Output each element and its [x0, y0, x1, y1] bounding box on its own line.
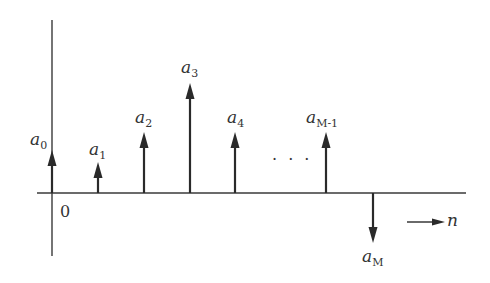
- label-a1: a1: [89, 141, 106, 161]
- impulse-stem-a4: [231, 132, 240, 193]
- n-direction-arrow-icon: [407, 219, 445, 226]
- impulse-stem-a0: [48, 150, 57, 193]
- impulse-sequence-diagram: [0, 0, 490, 283]
- impulse-stem-aM-1: [322, 132, 331, 193]
- impulse-stem-a1: [94, 162, 103, 193]
- label-a3: a3: [181, 59, 198, 79]
- origin-label: 0: [60, 204, 70, 220]
- label-aM-1: aM-1: [306, 109, 338, 129]
- n-axis-label: n: [447, 212, 458, 229]
- label-a2: a2: [135, 109, 152, 129]
- impulse-stem-a3: [186, 83, 195, 193]
- impulse-stem-a2: [140, 132, 149, 193]
- label-a0: a0: [30, 131, 47, 151]
- label-a4: a4: [227, 109, 244, 129]
- ellipsis: · · ·: [272, 152, 312, 168]
- label-aM: aM: [362, 248, 383, 268]
- impulse-stem-aM: [369, 193, 378, 243]
